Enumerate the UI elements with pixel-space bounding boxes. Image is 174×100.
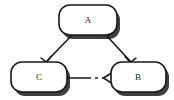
node-a[interactable]: A bbox=[59, 5, 117, 35]
diagram-svg: A C B bbox=[0, 0, 174, 100]
edge-group-solid bbox=[41, 35, 136, 62]
node-a-label: A bbox=[85, 15, 92, 25]
diagram-canvas: A C B bbox=[0, 0, 174, 100]
node-b[interactable]: B bbox=[111, 62, 166, 92]
node-c-label: C bbox=[36, 72, 42, 82]
node-b-label: B bbox=[135, 72, 141, 82]
edge-group-dashed bbox=[67, 73, 112, 83]
node-c[interactable]: C bbox=[11, 62, 67, 92]
